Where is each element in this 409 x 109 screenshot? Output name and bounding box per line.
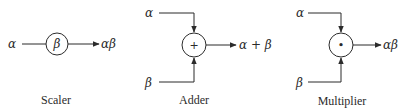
adder-caption: Adder	[179, 93, 209, 107]
diagram-svg: α β αβ Scaler α β + α + β Adder α β	[0, 0, 409, 109]
scaler-node-symbol: β	[53, 37, 61, 51]
adder-block: α β + α + β Adder	[144, 6, 272, 107]
scaler-output-label: αβ	[101, 37, 116, 51]
adder-node-symbol: +	[189, 39, 198, 52]
multiplier-input-beta-label: β	[295, 76, 303, 90]
multiplier-node-symbol: •	[338, 39, 345, 52]
adder-input-beta-label: β	[144, 76, 152, 90]
adder-input-alpha-arrow	[159, 13, 194, 32]
signal-flow-diagram: α β αβ Scaler α β + α + β Adder α β	[0, 0, 409, 109]
scaler-input-label: α	[8, 37, 16, 51]
multiplier-input-beta-arrow	[308, 58, 341, 82]
adder-output-label: α + β	[239, 38, 272, 52]
multiplier-input-alpha-arrow	[308, 13, 341, 32]
multiplier-caption: Multiplier	[318, 94, 367, 108]
adder-input-beta-arrow	[159, 58, 194, 82]
multiplier-output-label: αβ	[383, 38, 398, 52]
adder-input-alpha-label: α	[145, 6, 153, 20]
multiplier-input-alpha-label: α	[296, 6, 304, 20]
scaler-block: α β αβ Scaler	[8, 33, 116, 107]
scaler-caption: Scaler	[41, 93, 71, 107]
multiplier-block: α β • αβ Multiplier	[295, 6, 398, 108]
